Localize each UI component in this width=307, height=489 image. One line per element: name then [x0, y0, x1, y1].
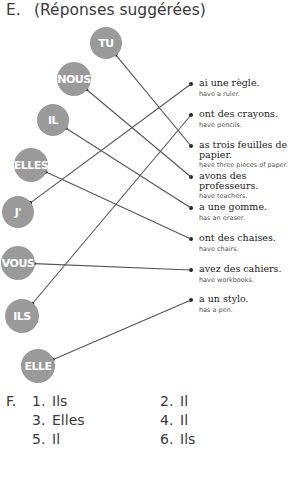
match-line	[116, 55, 191, 146]
answer-french: ont des crayons.	[199, 109, 278, 119]
f-item-1: 1.Ils	[32, 393, 67, 409]
answer-english: has an eraser.	[199, 215, 267, 222]
answer-english: have pencils.	[199, 122, 278, 129]
answer-english: have a ruler.	[199, 91, 260, 98]
section-f-letter: F.	[6, 393, 16, 409]
answer-french: ont des chaises.	[199, 233, 276, 243]
answer-french: as trois feuilles de papier.	[199, 140, 307, 159]
subject-bubble: VOUS	[1, 246, 35, 280]
answer-item: a un stylo.has a pen.	[199, 294, 249, 313]
answer-item: avez des cahiers.have workbooks.	[199, 264, 281, 283]
match-line	[66, 128, 191, 208]
answer-english: have teachers.	[199, 193, 307, 200]
f-item-3: 3.Elles	[32, 412, 85, 428]
answer-english: have workbooks.	[199, 277, 281, 284]
f-item-6: 6.Ils	[160, 431, 195, 447]
subject-bubble: J'	[2, 196, 34, 228]
answer-french: avons des professeurs.	[199, 171, 307, 190]
match-line	[34, 264, 191, 270]
f-item-2: 2.Il	[160, 393, 188, 409]
subject-bubble: ILS	[5, 299, 39, 333]
answer-item: as trois feuilles de papier.have three p…	[199, 140, 307, 169]
answer-item: ont des chaises.have chairs.	[199, 233, 276, 252]
answer-english: have chairs.	[199, 246, 276, 253]
subject-bubble: ELLE	[21, 349, 55, 383]
match-line	[46, 172, 191, 239]
subject-bubble: ELLES	[14, 148, 48, 182]
answer-item: avons des professeurs.have teachers.	[199, 171, 307, 200]
answer-item: a une gomme.has an eraser.	[199, 202, 267, 221]
answer-item: ai une règle.have a ruler.	[199, 78, 260, 97]
match-line	[53, 300, 191, 360]
f-item-5: 5.Il	[32, 431, 60, 447]
subject-bubble: NOUS	[57, 62, 91, 96]
answer-french: avez des cahiers.	[199, 264, 281, 274]
subject-bubble: TU	[90, 27, 122, 59]
subject-bubble: IL	[37, 104, 69, 136]
f-item-4: 4.Il	[160, 412, 188, 428]
answer-french: a un stylo.	[199, 294, 249, 304]
answer-french: a une gomme.	[199, 202, 267, 212]
answer-english: has a pen.	[199, 307, 249, 314]
answer-item: ont des crayons.have pencils.	[199, 109, 278, 128]
answer-french: ai une règle.	[199, 78, 260, 88]
answer-english: have three pieces of paper.	[199, 162, 307, 169]
